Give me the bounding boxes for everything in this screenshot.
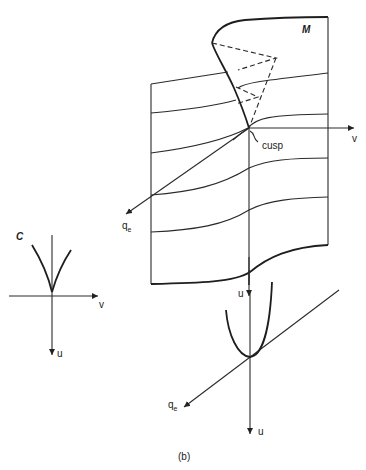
projection-label-c: C <box>16 231 24 242</box>
layer-line <box>151 197 328 232</box>
section-u-label: u <box>258 426 264 437</box>
section-plot: qe u <box>168 282 339 437</box>
u-axis-label: u <box>238 288 244 299</box>
projection-c: C v u <box>9 231 104 359</box>
surface-left-top <box>151 72 228 84</box>
layer-line <box>151 100 236 113</box>
qe-axis-arrow <box>126 128 249 214</box>
v-axis-label: v <box>352 133 357 144</box>
cusp-label: cusp <box>262 140 284 151</box>
c-u-axis-label: u <box>57 348 63 359</box>
surface-m: M v u qe cusp <box>122 17 357 299</box>
hidden-fold-line <box>212 43 276 70</box>
layer-line <box>151 128 248 153</box>
figure-caption: (b) <box>178 451 190 462</box>
cusp-catastrophe-figure: M v u qe cusp C v u qe u (b) <box>0 0 366 470</box>
layer-line <box>151 158 328 195</box>
c-v-axis-label: v <box>99 299 104 310</box>
layer-line <box>238 73 328 88</box>
cusp-branch-right <box>52 250 71 292</box>
qe-axis-label: qe <box>122 220 132 233</box>
cusp-branch-left <box>32 245 52 292</box>
surface-bottom-edge <box>151 245 328 284</box>
surface-label-m: M <box>302 24 311 35</box>
cusp-pointer <box>250 131 258 142</box>
layer-line <box>248 114 328 128</box>
section-qe-label: qe <box>168 399 178 412</box>
surface-top-edge <box>212 17 328 43</box>
